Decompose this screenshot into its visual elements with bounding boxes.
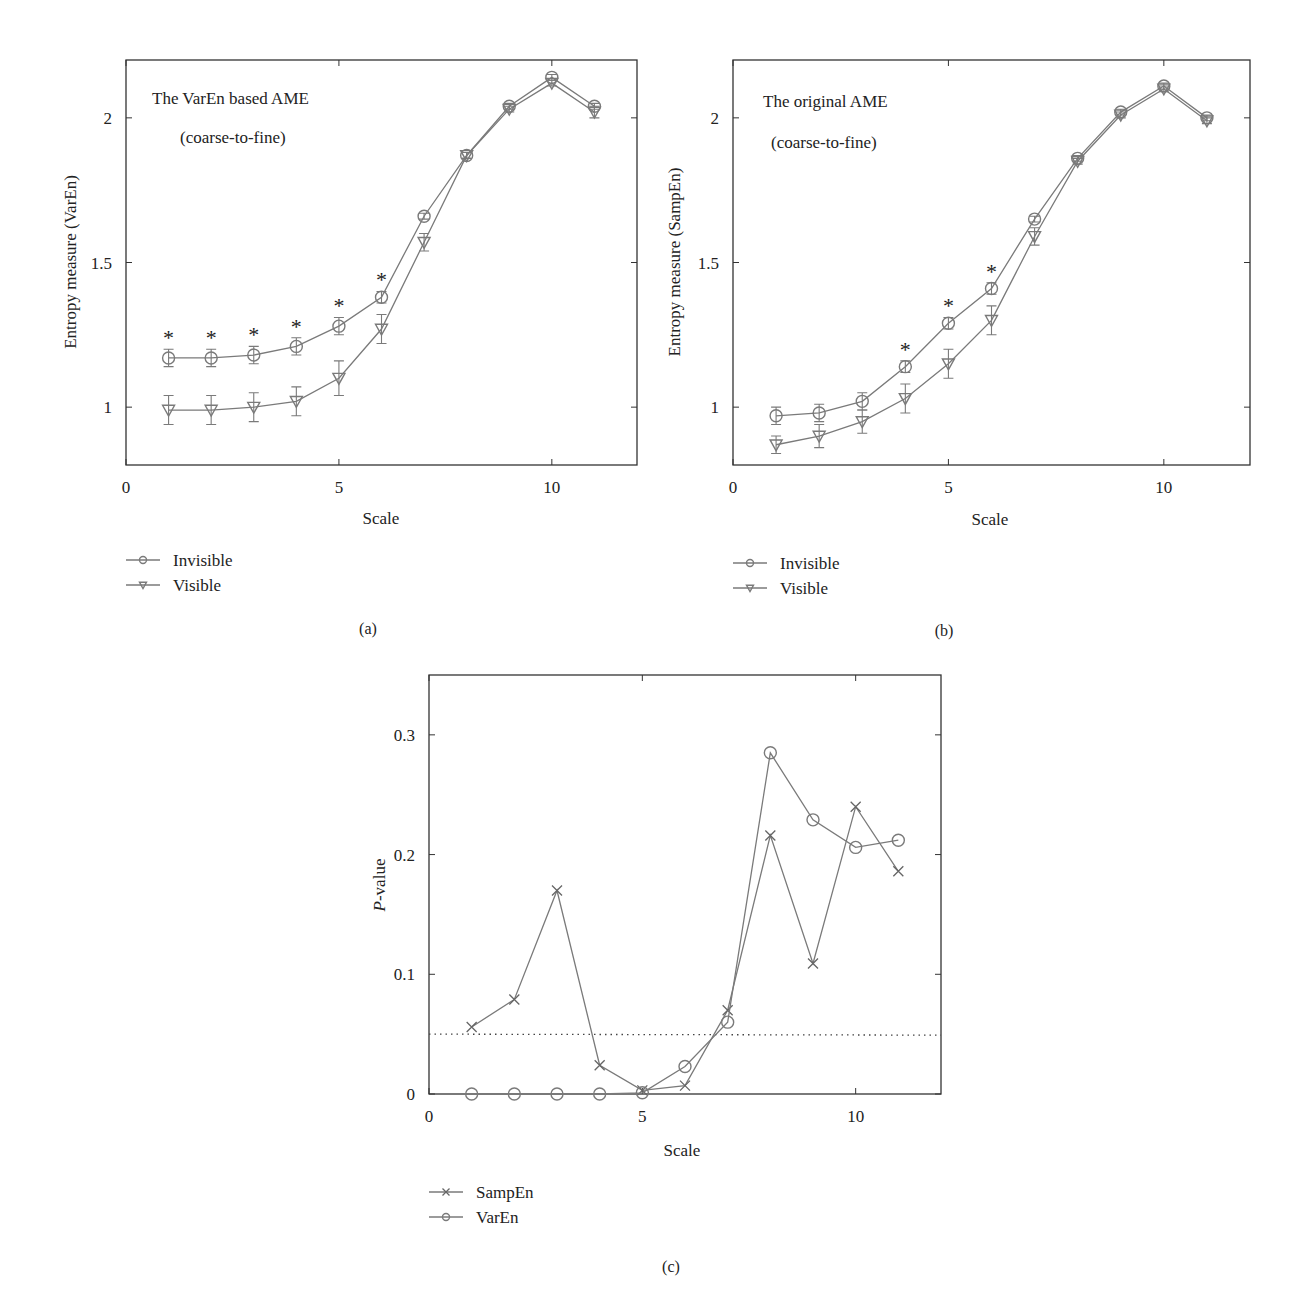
asterisk-icon: * [376,267,387,292]
data-series [466,747,905,1100]
legend: InvisibleVisible [126,551,233,595]
x-tick-label: 0 [729,478,738,497]
x-marker-icon [893,866,903,876]
y-tick-label: 2 [711,109,720,128]
x-tick-label: 10 [847,1107,864,1126]
asterisk-icon: * [206,325,217,350]
y-tick-label: 1.5 [698,254,719,273]
asterisk-icon: * [248,322,259,347]
legend: SampEnVarEn [429,1183,534,1227]
error-bar [1030,216,1040,222]
y-axis-title-rest: -value [370,859,389,901]
data-series [163,71,601,424]
x-axis-title: Scale [972,510,1009,529]
significance-threshold-line [429,1034,941,1035]
y-tick-label: 1 [104,398,113,417]
x-tick-label: 0 [425,1107,434,1126]
x-tick-label: 5 [638,1107,647,1126]
x-marker-icon [509,994,519,1004]
x-tick-label: 10 [1155,478,1172,497]
asterisk-icon: * [943,293,954,318]
legend-label: Visible [780,579,828,598]
tick-labels: 051011.52 [698,109,1173,497]
panel-b-chart: 051011.52 *** The original AME (coarse-t… [665,60,1250,640]
annotation-line1: The VarEn based AME [152,89,309,108]
x-tick-label: 5 [944,478,953,497]
legend-label: VarEn [476,1208,519,1227]
y-axis-title: Entropy measure (SampEn) [665,168,684,357]
plot-frame [126,60,637,465]
significance-asterisks: ****** [163,267,387,350]
asterisk-icon: * [900,337,911,362]
legend-label: Visible [173,576,221,595]
panel-label: (a) [359,620,377,638]
series-line [472,753,899,1094]
y-tick-label: 2 [104,109,113,128]
y-tick-label: 0 [407,1085,416,1104]
x-marker-icon [851,802,861,812]
y-tick-label: 1.5 [91,254,112,273]
x-marker-icon [595,1060,605,1070]
legend: InvisibleVisible [733,554,840,598]
x-tick-label: 10 [543,478,560,497]
y-tick-label: 0.1 [394,965,415,984]
x-marker-icon [467,1022,477,1032]
asterisk-icon: * [333,293,344,318]
axis-ticks [429,675,941,1094]
asterisk-icon: * [986,259,997,284]
x-axis-title: Scale [363,509,400,528]
panel-label: (c) [662,1258,680,1276]
legend-label: Invisible [173,551,233,570]
axis-ticks [126,60,637,465]
x-tick-label: 5 [335,478,344,497]
legend-label: Invisible [780,554,840,573]
x-tick-label: 0 [122,478,131,497]
error-bar [419,213,429,219]
y-tick-label: 0.3 [394,726,415,745]
panel-a-chart: 051011.52 ****** The VarEn based AME (co… [61,60,637,638]
asterisk-icon: * [163,325,174,350]
annotation-line1: The original AME [763,92,888,111]
x-marker-icon [552,885,562,895]
asterisk-icon: * [291,314,302,339]
y-axis-title: Entropy measure (VarEn) [61,175,80,349]
tick-labels: 051011.52 [91,109,561,497]
x-axis-title: Scale [664,1141,701,1160]
figure: 051011.52 ****** The VarEn based AME (co… [0,0,1308,1309]
panel-label: (b) [935,622,954,640]
y-axis-title-italic: P [370,901,389,912]
tick-labels: 051000.10.20.3 [394,726,864,1126]
annotation-line2: (coarse-to-fine) [771,133,877,152]
series-line [472,807,899,1091]
panel-c-chart: 051000.10.20.3 Scale P-value SampEnVarEn… [370,675,941,1276]
x-marker-icon [723,1005,733,1015]
y-tick-label: 1 [711,398,720,417]
legend-label: SampEn [476,1183,534,1202]
plot-frame [429,675,941,1094]
significance-asterisks: *** [900,259,997,362]
y-tick-label: 0.2 [394,846,415,865]
annotation-line2: (coarse-to-fine) [180,128,286,147]
y-axis-title: P-value [370,859,389,913]
x-marker-icon [808,959,818,969]
x-marker-icon [765,830,775,840]
